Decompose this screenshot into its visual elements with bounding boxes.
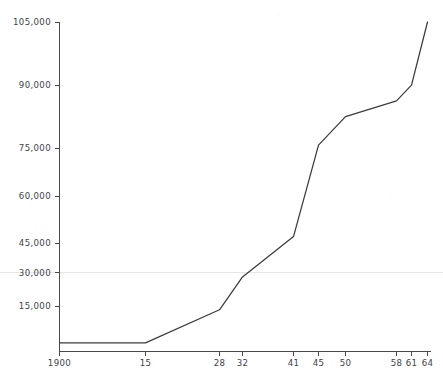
- x-tick-label: 58: [391, 358, 403, 368]
- x-tick-label: 15: [140, 358, 152, 368]
- x-tick-label: 41: [288, 358, 300, 368]
- x-axis: 1900152832414550586164: [48, 352, 433, 369]
- y-tick-label: 45,000: [19, 238, 51, 248]
- y-axis-ticks: [55, 22, 60, 306]
- x-tick-label: 1900: [48, 358, 71, 368]
- y-tick-label: 90,000: [19, 80, 51, 90]
- y-tick-label: 60,000: [19, 191, 51, 201]
- chart-canvas: 15,00030,00045,00060,00075,00090,000105,…: [0, 0, 443, 378]
- plot-area: [60, 22, 428, 343]
- x-tick-label: 50: [340, 358, 352, 368]
- y-tick-label: 15,000: [19, 301, 51, 311]
- x-tick-label: 28: [214, 358, 226, 368]
- x-axis-ticks: [60, 352, 428, 357]
- x-tick-label: 61: [406, 358, 418, 368]
- y-tick-label: 105,000: [13, 17, 51, 27]
- y-axis-tick-labels: 15,00030,00045,00060,00075,00090,000105,…: [13, 17, 51, 311]
- x-tick-label: 32: [237, 358, 249, 368]
- line-chart: 15,00030,00045,00060,00075,00090,000105,…: [0, 0, 443, 378]
- x-axis-tick-labels: 1900152832414550586164: [48, 358, 433, 368]
- x-tick-label: 45: [313, 358, 325, 368]
- x-tick-label: 64: [422, 358, 434, 368]
- y-tick-label: 75,000: [19, 143, 51, 153]
- data-series-line: [60, 22, 428, 343]
- y-axis: 15,00030,00045,00060,00075,00090,000105,…: [13, 17, 60, 351]
- y-tick-label: 30,000: [19, 268, 51, 278]
